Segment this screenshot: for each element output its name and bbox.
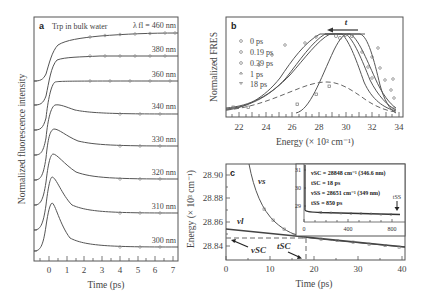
tick-label: 22 (235, 122, 244, 132)
trace-label-460: λ fl = 460 nm (133, 21, 177, 30)
tick-label: 30 (342, 122, 352, 132)
tick-label: 0 (47, 265, 52, 275)
panel-a-trace-labels: λ fl = 460 nm 380 nm 360 nm 340 nm 330 n… (133, 21, 177, 245)
time-arrow-label: t (345, 17, 348, 27)
inset-tsc-value: tSC = 18 ps (311, 180, 341, 186)
panel-c-x-ticks (226, 256, 402, 260)
legend-label: 0.19 ps (250, 48, 273, 57)
legend-marker-019ps (240, 51, 243, 54)
tick-label: 24 (262, 122, 272, 132)
figure: 0 1 2 3 4 5 6 7 Time (ps) Normalized flu… (0, 0, 422, 302)
vs-curve-label: νs (258, 176, 266, 186)
panel-b: 22 24 26 28 30 32 34 Energy (× 10³ cm⁻¹)… (209, 17, 404, 148)
trace-label-340: 340 nm (152, 102, 177, 111)
panel-a-x-tick-labels: 0 1 2 3 4 5 6 7 (47, 265, 176, 275)
trace-label-360: 360 nm (152, 70, 177, 79)
panel-c-x-tick-labels: 0 10 20 30 40 (224, 264, 407, 274)
panel-c: 28.84 28.86 28.88 28.90 0 10 20 30 40 Ti… (186, 164, 407, 290)
tick-label: 40 (398, 264, 408, 274)
panel-a-x-ticks (40, 256, 173, 261)
panel-a-label: a (39, 21, 45, 31)
tick-label: 400 (344, 226, 353, 232)
panel-c-y-axis-label: Energy (× 10³ cm⁻¹) (186, 170, 197, 248)
panel-b-legend: 0 ps 0.19 ps 0.39 ps 1 ps 18 ps (240, 37, 274, 89)
panel-b-x-axis-label: Energy (× 10³ cm⁻¹) (276, 137, 354, 148)
tick-label: 31 (295, 167, 301, 173)
panel-b-time-arrow: t (327, 17, 358, 33)
tick-label: 6 (153, 265, 158, 275)
legend-marker-039ps (240, 62, 243, 65)
panel-c-y-ticks (226, 175, 230, 246)
tick-label: 800 (388, 226, 397, 232)
tick-label: 10 (266, 264, 276, 274)
tick-label: 2 (82, 265, 87, 275)
panel-b-label: b (231, 21, 237, 31)
tick-label: 4 (118, 265, 123, 275)
trace-label-330: 330 nm (152, 135, 177, 144)
legend-label: 18 ps (250, 80, 267, 89)
legend-marker-0ps (240, 40, 243, 43)
tick-label: 3 (100, 265, 105, 275)
panel-b-x-tick-labels: 22 24 26 28 30 32 34 (235, 122, 405, 132)
tick-label: 32 (368, 122, 377, 132)
legend-label: 0 ps (250, 37, 263, 46)
trace-label-380: 380 nm (152, 45, 177, 54)
panel-c-inset: 29 30 31 0 400 800 νS (295, 164, 405, 236)
tick-label: 26 (288, 122, 298, 132)
panel-a-y-axis-label: Normalized fluorescence intensity (17, 74, 27, 205)
tick-label: 1 (65, 265, 70, 275)
tick-label: 28.88 (203, 193, 224, 203)
tick-label: 5 (136, 265, 141, 275)
tick-label: 28.86 (203, 217, 224, 227)
trace-label-310: 310 nm (152, 202, 177, 211)
inset-vsc-value: νSC = 28848 cm⁻¹ (346.6 nm) (310, 170, 386, 177)
tick-label: 28.84 (203, 241, 224, 251)
legend-marker-18ps (240, 83, 243, 85)
panel-c-x-axis-label: Time (ps) (296, 279, 333, 290)
panel-c-y-tick-labels: 28.84 28.86 28.88 28.90 (203, 170, 224, 251)
tick-label: 28.90 (203, 170, 224, 180)
panel-b-x-ticks (232, 112, 399, 117)
legend-marker-1ps (240, 72, 243, 74)
vl-line-label: νl (237, 216, 244, 226)
panel-c-label: c (230, 168, 235, 178)
tsc-label: tSC (277, 241, 292, 251)
trace-label-320: 320 nm (152, 168, 177, 177)
tick-label: 7 (171, 265, 176, 275)
tick-label: 20 (310, 264, 320, 274)
legend-label: 1 ps (250, 70, 263, 79)
tick-label: 0 (224, 264, 229, 274)
panel-b-y-axis-label: Normalized FRES (209, 32, 219, 102)
tick-label: 28 (315, 122, 325, 132)
tick-label: 30 (295, 185, 301, 191)
tick-label: 0 (303, 226, 306, 232)
panel-a-title: Trp in bulk water (52, 22, 108, 31)
legend-label: 0.39 ps (250, 59, 273, 68)
inset-tss-value: tSS = 850 ps (311, 200, 343, 206)
panel-a-x-axis-label: Time (ps) (88, 280, 125, 291)
vsc-label: νSC (251, 245, 267, 255)
trace-label-300: 300 nm (152, 236, 177, 245)
tsc-arrow (288, 252, 302, 259)
tick-label: 34 (395, 122, 405, 132)
panel-a: 0 1 2 3 4 5 6 7 Time (ps) Normalized flu… (17, 17, 178, 291)
inset-vss-value: νSS = 28651 cm⁻¹ (349 nm) (310, 190, 380, 197)
vsc-arrow (231, 239, 248, 247)
tick-label: 30 (354, 264, 364, 274)
tick-label: 29 (295, 203, 301, 209)
inset-tss-arrow-label: tSS (393, 194, 401, 200)
